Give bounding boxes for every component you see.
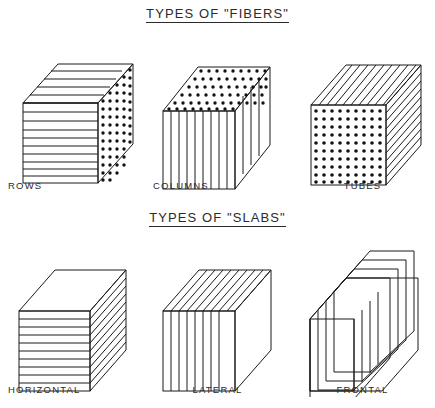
columns-block-drawing xyxy=(145,23,290,193)
figure-label-frontal: FRONTAL xyxy=(290,384,435,395)
lateral-block-drawing xyxy=(145,227,290,397)
fibers-title: TYPES OF "FIBERS" xyxy=(0,0,435,23)
frontal-front-face xyxy=(310,319,354,391)
figure-lateral: LATERAL xyxy=(145,227,290,397)
columns-top-face xyxy=(163,67,270,111)
figure-columns: COLUMNS xyxy=(145,23,290,193)
rows-block-drawing xyxy=(0,23,145,193)
tubes-top-face xyxy=(311,65,421,105)
columns-front-face xyxy=(163,111,235,189)
tubes-top-lines xyxy=(319,65,416,105)
tubes-side-lines xyxy=(386,73,421,177)
section-fibers: TYPES OF "FIBERS" xyxy=(0,0,435,204)
figure-label-columns: COLUMNS xyxy=(145,180,298,191)
figure-label-lateral: LATERAL xyxy=(145,384,290,395)
fibers-title-text: TYPES OF "FIBERS" xyxy=(146,6,289,23)
figure-frontal: FRONTAL xyxy=(290,227,435,397)
columns-right-face xyxy=(235,67,270,189)
slabs-title-text: TYPES OF "SLABS" xyxy=(149,210,286,227)
figure-rows: ROWS xyxy=(0,23,145,193)
lateral-front-face xyxy=(163,311,235,391)
columns-front-lines xyxy=(171,111,227,189)
lateral-top-lines xyxy=(171,270,263,311)
section-slabs: TYPES OF "SLABS" xyxy=(0,204,435,408)
columns-side-lines xyxy=(243,78,259,174)
tubes-block-drawing xyxy=(290,23,435,193)
figure-label-horizontal: HORIZONTAL xyxy=(0,384,153,395)
horizontal-front-lines xyxy=(19,319,90,383)
frontal-slab-stack xyxy=(310,251,414,397)
lateral-front-lines xyxy=(171,311,219,391)
columns-top-dots xyxy=(167,69,267,110)
rows-front-face xyxy=(23,103,98,183)
slabs-figures: HORIZONTAL xyxy=(0,227,435,397)
rows-side-dots xyxy=(101,68,131,181)
tubes-front-dots xyxy=(314,109,382,184)
fibers-figures: ROWS xyxy=(0,23,435,193)
figure-horizontal: HORIZONTAL xyxy=(0,227,145,397)
tubes-front-face xyxy=(311,105,386,185)
horizontal-block-drawing xyxy=(0,227,145,397)
lateral-right-face xyxy=(235,270,271,391)
figure-tubes: TUBES xyxy=(290,23,435,193)
horizontal-side-lines xyxy=(90,278,126,383)
frontal-block-drawing xyxy=(290,227,435,397)
figure-label-tubes: TUBES xyxy=(290,180,435,191)
figure-label-rows: ROWS xyxy=(0,180,153,191)
rows-front-lines xyxy=(23,112,98,176)
slabs-title: TYPES OF "SLABS" xyxy=(0,204,435,227)
